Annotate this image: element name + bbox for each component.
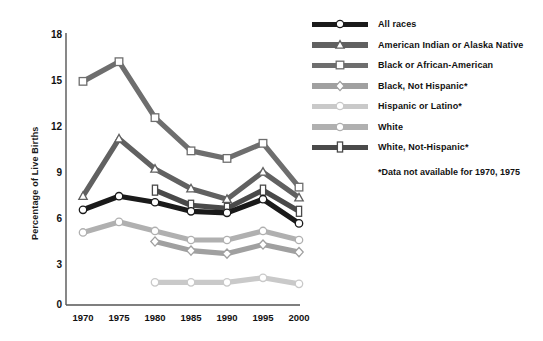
- legend-label-white: White: [378, 122, 403, 132]
- data-point: [295, 220, 302, 227]
- data-point: [79, 229, 86, 236]
- data-point: [115, 193, 122, 200]
- data-point: [259, 274, 266, 281]
- data-point: [259, 196, 266, 203]
- data-point: [115, 218, 122, 225]
- legend-label-black-not-hispanic: Black, Not Hispanic*: [378, 81, 468, 91]
- legend-item-american-indian-or-alaska-native[interactable]: American Indian or Alaska Native: [312, 35, 540, 56]
- data-point: [259, 140, 267, 148]
- data-point: [296, 206, 301, 216]
- legend-swatch-all-races: [312, 20, 368, 29]
- data-point: [187, 279, 194, 286]
- legend-label-american-indian-or-alaska-native: American Indian or Alaska Native: [378, 40, 523, 50]
- legend-swatch-white: [312, 122, 368, 131]
- legend-item-white-not-hispanic[interactable]: White, Not-Hispanic*: [312, 137, 540, 158]
- series-line: [83, 62, 299, 187]
- legend-item-black-not-hispanic[interactable]: Black, Not Hispanic*: [312, 76, 540, 97]
- legend-swatch-white-not-hispanic: [312, 143, 368, 152]
- data-point: [223, 236, 230, 243]
- legend-item-all-races[interactable]: All races: [312, 14, 540, 35]
- legend-swatch-black-or-african-american: [312, 61, 368, 70]
- data-point: [223, 279, 230, 286]
- data-point: [187, 236, 194, 243]
- data-point: [151, 199, 158, 206]
- legend-item-hispanic-or-latino[interactable]: Hispanic or Latino*: [312, 96, 540, 117]
- data-point: [187, 208, 194, 215]
- legend-swatch-black-not-hispanic: [312, 81, 368, 90]
- chart-legend: All races American Indian or Alaska Nati…: [312, 14, 540, 177]
- legend-label-hispanic-or-latino: Hispanic or Latino*: [378, 101, 462, 111]
- legend-label-all-races: All races: [378, 19, 416, 29]
- data-point: [259, 227, 266, 234]
- data-point: [151, 227, 158, 234]
- legend-item-white[interactable]: White: [312, 117, 540, 138]
- data-point: [187, 147, 195, 155]
- data-point: [115, 58, 123, 66]
- legend-label-white-not-hispanic: White, Not-Hispanic*: [378, 142, 469, 152]
- data-point: [223, 155, 231, 163]
- data-point: [223, 209, 230, 216]
- data-point: [152, 185, 157, 195]
- data-point: [295, 280, 302, 287]
- data-point: [260, 185, 265, 195]
- data-point: [295, 183, 303, 191]
- data-point: [295, 236, 302, 243]
- data-point: [151, 279, 158, 286]
- series-layer: [79, 58, 303, 288]
- legend-item-black-or-african-american[interactable]: Black or African-American: [312, 55, 540, 76]
- legend-label-black-or-african-american: Black or African-American: [378, 60, 493, 70]
- legend-footnote: *Data not available for 1970, 1975: [378, 167, 540, 177]
- legend-swatch-hispanic-or-latino: [312, 102, 368, 111]
- data-point: [79, 78, 87, 86]
- data-point: [151, 114, 159, 122]
- data-point: [79, 206, 86, 213]
- legend-swatch-american-indian-or-alaska-native: [312, 40, 368, 49]
- chart-figure: Percentage of Live Births 18 15 12 9 6 3…: [0, 0, 543, 341]
